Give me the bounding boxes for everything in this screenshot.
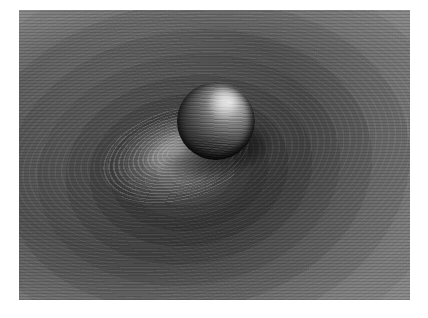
sphere-limb-darkening <box>177 82 255 160</box>
figure-title: Sphere resting in a contoured potential … <box>0 0 1 1</box>
sphere-body <box>177 82 255 160</box>
image-canvas: Sphere resting in a contoured potential … <box>0 0 428 318</box>
sphere-group <box>177 82 255 160</box>
rendered-image-plate <box>19 10 410 300</box>
